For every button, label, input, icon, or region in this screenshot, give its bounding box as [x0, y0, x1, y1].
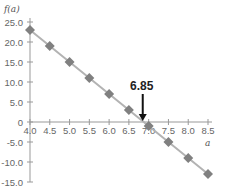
y-tick-label: 10.0: [5, 77, 24, 88]
x-tick-label: 4.0: [23, 125, 36, 136]
y-tick-label: 5.0: [10, 97, 23, 108]
x-tick-label: 6.5: [122, 125, 135, 136]
series: [25, 25, 213, 179]
y-tick-label: 0: [18, 117, 23, 128]
x-tick-label: 5.5: [83, 125, 96, 136]
y-tick-label: 15.0: [5, 57, 24, 68]
x-tick-label: 8.0: [182, 125, 195, 136]
y-tick-label: -5.0: [7, 137, 23, 148]
chart: 25.020.015.010.05.00-5.0-10.0-15.04.04.5…: [0, 0, 232, 194]
x-tick-label: 6.0: [103, 125, 116, 136]
x-tick-label: 7.5: [162, 125, 175, 136]
y-tick-label: 25.0: [5, 17, 24, 28]
x-tick-label: 8.5: [201, 125, 214, 136]
series-line: [30, 30, 208, 174]
x-tick-label: 4.5: [43, 125, 56, 136]
x-axis-title: a: [205, 138, 210, 148]
y-tick-label: 20.0: [5, 37, 24, 48]
x-tick-label: 5.0: [63, 125, 76, 136]
y-axis-title: f(a): [3, 4, 20, 14]
ticks: 25.020.015.010.05.00-5.0-10.0-15.04.04.5…: [1, 17, 214, 188]
y-tick-label: -15.0: [1, 177, 23, 188]
y-tick-label: -10.0: [1, 157, 23, 168]
annotation-label: 6.85: [130, 79, 154, 93]
